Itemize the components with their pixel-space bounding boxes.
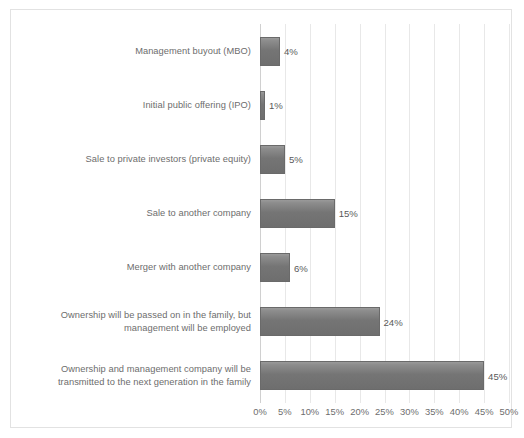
chart-frame: Management buyout (MBO)4%Initial public … (10, 9, 512, 428)
x-tick-label: 50% (500, 406, 519, 417)
x-tick-label: 15% (325, 406, 344, 417)
category-label: Management buyout (MBO) (19, 45, 251, 58)
x-tick-label: 20% (350, 406, 369, 417)
bar[interactable]: 24% (260, 307, 380, 336)
bar[interactable]: 6% (260, 253, 290, 282)
gridline-50pct (509, 24, 510, 403)
bar[interactable]: 4% (260, 37, 280, 66)
x-tick-label: 5% (278, 406, 292, 417)
category-label: Ownership and management company will be… (19, 363, 251, 388)
bar-row: Ownership will be passed on in the famil… (260, 295, 509, 349)
bar-row: Sale to another company15% (260, 186, 509, 240)
x-tick-label: 45% (475, 406, 494, 417)
x-tick-label: 25% (375, 406, 394, 417)
bar-row: Management buyout (MBO)4% (260, 24, 509, 78)
bar[interactable]: 15% (260, 199, 335, 228)
category-label: Sale to another company (19, 207, 251, 220)
category-label: Merger with another company (19, 261, 251, 274)
bar-row: Merger with another company6% (260, 241, 509, 295)
bar-row: Initial public offering (IPO)1% (260, 78, 509, 132)
plot-area: Management buyout (MBO)4%Initial public … (260, 24, 509, 403)
bar-value-label: 5% (289, 154, 303, 165)
bar[interactable]: 45% (260, 361, 484, 390)
x-tick-label: 0% (253, 406, 267, 417)
category-label: Initial public offering (IPO) (19, 99, 251, 112)
bar-row: Sale to private investors (private equit… (260, 132, 509, 186)
bar-value-label: 4% (284, 46, 298, 57)
x-axis-tick-labels: 0%5%10%15%20%25%30%35%40%45%50% (260, 406, 509, 422)
bar-value-label: 24% (384, 316, 403, 327)
bar[interactable]: 1% (260, 91, 265, 120)
bar-value-label: 45% (488, 370, 507, 381)
category-label: Ownership will be passed on in the famil… (19, 309, 251, 334)
x-tick-label: 40% (450, 406, 469, 417)
bar[interactable]: 5% (260, 145, 285, 174)
bar-value-label: 1% (269, 100, 283, 111)
x-tick-label: 30% (400, 406, 419, 417)
x-tick-label: 35% (425, 406, 444, 417)
bar-value-label: 6% (294, 262, 308, 273)
category-label: Sale to private investors (private equit… (19, 153, 251, 166)
bar-value-label: 15% (339, 208, 358, 219)
bar-series: Management buyout (MBO)4%Initial public … (260, 24, 509, 403)
x-tick-label: 10% (300, 406, 319, 417)
bar-row: Ownership and management company will be… (260, 349, 509, 403)
